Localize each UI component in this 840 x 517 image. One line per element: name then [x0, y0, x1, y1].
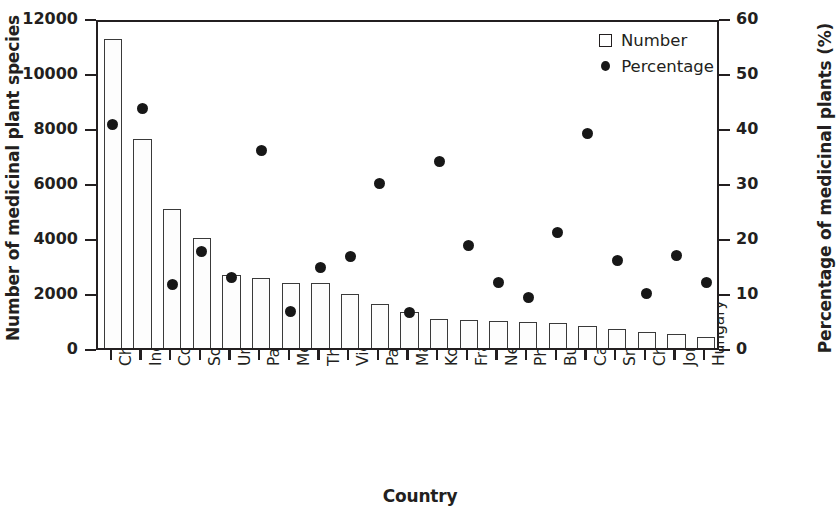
- y-tick-label-right: 0: [736, 339, 747, 358]
- medicinal-plants-chart: Number of medicinal plant species Percen…: [0, 0, 840, 517]
- x-tick: [377, 350, 379, 360]
- legend-item-number: Number: [598, 27, 714, 53]
- y-tick-label-left: 4000: [33, 229, 78, 248]
- y-tick-label-right: 10: [736, 284, 758, 303]
- y-tick-label-right: 30: [736, 174, 758, 193]
- data-point: [285, 306, 296, 317]
- y-axis-left-title: Number of medicinal plant species: [0, 3, 26, 353]
- data-point: [582, 128, 593, 139]
- y-tick-label-left: 0: [67, 339, 78, 358]
- data-point: [552, 227, 563, 238]
- y-tick-right: [719, 184, 730, 187]
- data-point: [374, 178, 385, 189]
- y-tick-label-left: 6000: [33, 174, 78, 193]
- x-tick: [288, 350, 290, 360]
- y-tick-label-right: 60: [736, 9, 758, 28]
- y-tick-label-right: 20: [736, 229, 758, 248]
- data-point: [701, 277, 712, 288]
- legend-item-percentage: Percentage: [598, 53, 714, 79]
- y-tick-right: [719, 129, 730, 132]
- x-tick: [614, 350, 616, 360]
- data-point: [226, 272, 237, 283]
- data-point: [256, 145, 267, 156]
- x-tick: [436, 350, 438, 360]
- legend-label-percentage: Percentage: [621, 57, 714, 76]
- x-axis-title: Country: [0, 486, 840, 506]
- y-tick-label-right: 40: [736, 119, 758, 138]
- y-tick-left: [85, 184, 96, 187]
- x-tick: [525, 350, 527, 360]
- y-tick-label-left: 12000: [22, 9, 78, 28]
- data-point: [493, 277, 504, 288]
- y-tick-right: [719, 239, 730, 242]
- x-tick: [495, 350, 497, 360]
- y-tick-left: [85, 74, 96, 77]
- data-point: [196, 246, 207, 257]
- y-tick-left: [85, 239, 96, 242]
- y-tick-left: [85, 349, 96, 352]
- data-point: [523, 292, 534, 303]
- data-point: [463, 240, 474, 251]
- data-point: [167, 279, 178, 290]
- legend-label-number: Number: [621, 31, 687, 50]
- x-tick: [228, 350, 230, 360]
- x-tick: [555, 350, 557, 360]
- y-tick-label-left: 2000: [33, 284, 78, 303]
- x-tick: [347, 350, 349, 360]
- data-point: [641, 288, 652, 299]
- y-tick-label-left: 10000: [22, 64, 78, 83]
- data-point: [345, 251, 356, 262]
- x-tick: [199, 350, 201, 360]
- x-tick: [169, 350, 171, 360]
- x-tick: [139, 350, 141, 360]
- x-tick: [673, 350, 675, 360]
- data-point: [315, 262, 326, 273]
- x-tick: [466, 350, 468, 360]
- y-tick-right: [719, 74, 730, 77]
- y-tick-right: [719, 294, 730, 297]
- y-tick-left: [85, 129, 96, 132]
- x-tick: [584, 350, 586, 360]
- y-axis-right-title: Percentage of medicinal plants (%): [812, 8, 838, 368]
- chart-legend: Number Percentage: [598, 27, 714, 79]
- filled-circle-icon: [601, 61, 610, 71]
- x-tick: [110, 350, 112, 360]
- data-point: [107, 119, 118, 130]
- data-point: [612, 255, 623, 266]
- data-point: [404, 307, 415, 318]
- x-tick: [703, 350, 705, 360]
- data-point: [671, 250, 682, 261]
- y-tick-right: [719, 19, 730, 22]
- y-tick-left: [85, 19, 96, 22]
- y-tick-label-right: 50: [736, 64, 758, 83]
- open-square-icon: [599, 34, 612, 47]
- x-tick: [258, 350, 260, 360]
- y-tick-label-left: 8000: [33, 119, 78, 138]
- y-tick-left: [85, 294, 96, 297]
- x-tick: [317, 350, 319, 360]
- data-point: [137, 103, 148, 114]
- x-tick: [406, 350, 408, 360]
- x-tick: [644, 350, 646, 360]
- data-point: [434, 156, 445, 167]
